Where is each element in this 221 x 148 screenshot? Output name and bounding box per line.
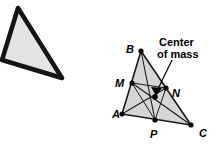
label-N: N [172,87,181,99]
callout-line-1: Center [159,36,195,48]
point-dot-C [188,122,193,127]
callout-line-2: of mass [157,48,199,60]
label-A: A [111,108,120,120]
point-dot-P [152,117,157,122]
point-dot-N [163,85,168,90]
point-dot-M [129,80,134,85]
tilted-triangle-shape [2,8,62,78]
label-M: M [115,77,125,89]
point-dot-B [138,48,143,53]
geometry-diagram: A B C M N P Center of mass [0,0,221,148]
label-B: B [126,43,134,55]
point-dot-A [119,111,124,116]
label-C: C [199,127,208,139]
centroid-dot [152,94,158,100]
label-P: P [150,128,158,140]
figure-canvas: A B C M N P Center of mass [0,0,221,148]
